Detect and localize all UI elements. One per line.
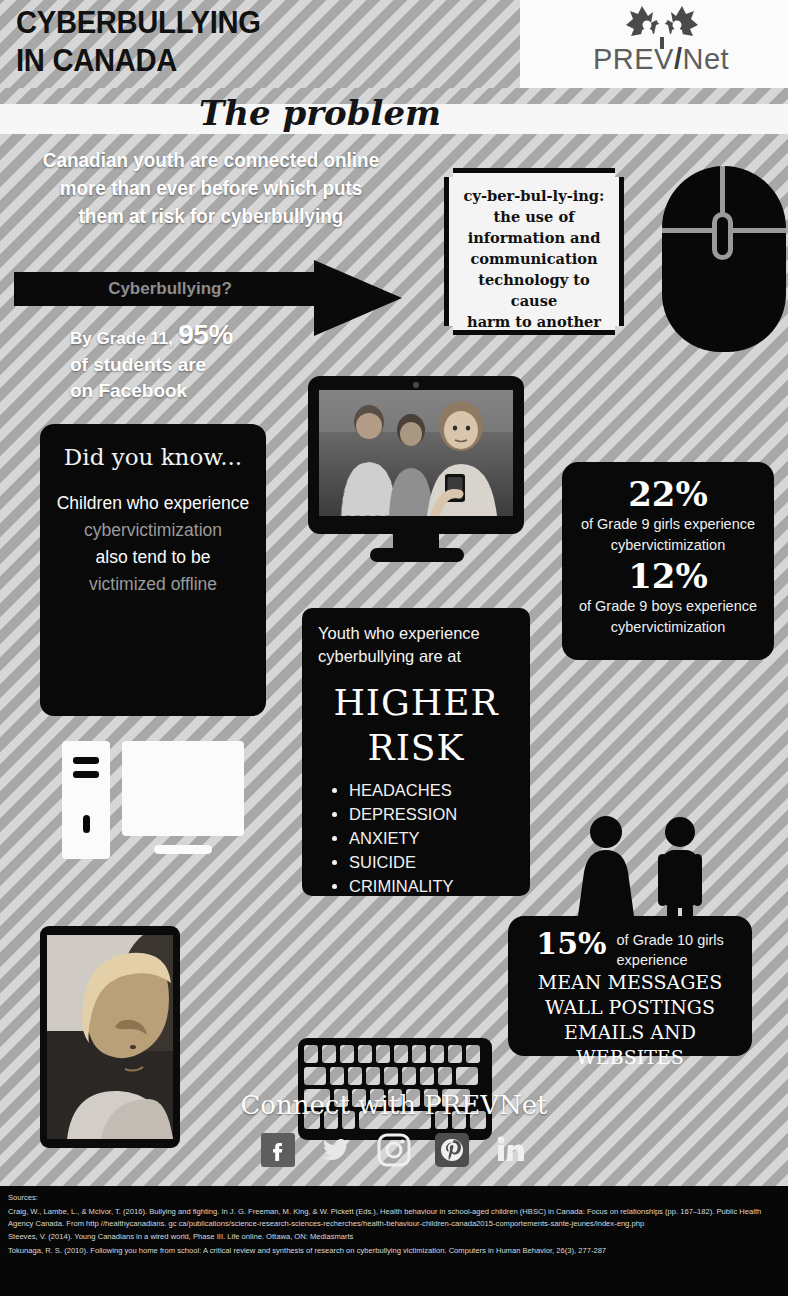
- did-you-know-line-2: cybervictimization: [50, 517, 256, 544]
- page-title-line2: IN CANADA: [16, 42, 458, 80]
- grade9-statistics-card: 22% of Grade 9 girls experience cybervic…: [562, 462, 774, 660]
- higher-risk-intro-line-1: Youth who experience: [318, 622, 514, 645]
- keyboard-key: [384, 1067, 398, 1085]
- grade9-girls-value: 22%: [572, 474, 764, 514]
- section-title-the-problem: The problem: [0, 93, 640, 133]
- definition-line-1: cy-ber-bul-ly-ing:: [459, 185, 609, 206]
- keyboard-key: [340, 1045, 354, 1063]
- bottom-margin: [0, 1296, 788, 1307]
- definition-line-6: harm to another: [459, 311, 609, 332]
- keyboard-key: [448, 1045, 462, 1063]
- intro-line-2: more than ever before which puts: [14, 174, 408, 202]
- infographic-poster: CYBERBULLYING IN CANADA PREV/Net The pro…: [0, 0, 788, 1307]
- keyboard-row: [304, 1067, 486, 1085]
- keyboard-key: [304, 1045, 318, 1063]
- definition-line-3: information and: [459, 227, 609, 248]
- higher-risk-intro-line-2: cyberbullying are at: [318, 645, 514, 668]
- list-item: CRIMINALITY: [332, 874, 514, 898]
- instagram-icon[interactable]: [376, 1132, 412, 1168]
- facebook-statistic: By Grade 11, 95% of students are on Face…: [70, 322, 330, 404]
- pinterest-icon[interactable]: [434, 1132, 470, 1168]
- keyboard-key: [430, 1045, 444, 1063]
- arrow-label: Cyberbullying?: [14, 272, 326, 306]
- higher-risk-list: HEADACHES DEPRESSION ANXIETY SUICIDE CRI…: [318, 778, 514, 898]
- keyboard-key: [412, 1045, 426, 1063]
- list-item: ANXIETY: [332, 826, 514, 850]
- grade10-statistic-value: 15%: [536, 928, 606, 960]
- definition-line-2: the use of: [459, 206, 609, 227]
- monitor-base: [370, 548, 464, 562]
- computer-mouse-icon: [662, 166, 782, 356]
- intro-line-3: them at risk for cyberbullying: [14, 202, 408, 230]
- did-you-know-card: Did you know... Children who experience …: [40, 424, 266, 716]
- sources-footer: Sources: Craig, W., Lambe, L., & McIvor,…: [0, 1186, 788, 1296]
- grade9-girls-caption-1: of Grade 9 girls experience: [572, 514, 764, 535]
- pc-monitor-stand: [154, 845, 212, 854]
- twitter-icon[interactable]: [318, 1132, 354, 1168]
- linkedin-icon[interactable]: [492, 1132, 528, 1168]
- did-you-know-line-4: victimized offline: [50, 571, 256, 598]
- facebook-statistic-line3: on Facebook: [70, 378, 330, 404]
- teens-with-phone-photo: [319, 390, 513, 516]
- did-you-know-title: Did you know...: [50, 444, 256, 470]
- facebook-icon[interactable]: [260, 1132, 296, 1168]
- keyboard-key: [348, 1067, 362, 1085]
- list-item: HEADACHES: [332, 778, 514, 802]
- higher-risk-headline-line-2: RISK: [318, 725, 514, 770]
- pc-monitor-icon: [122, 741, 244, 836]
- keyboard-row: [304, 1045, 486, 1063]
- monitor-with-photo: [308, 376, 536, 584]
- did-you-know-line-3: also tend to be: [50, 544, 256, 571]
- page-title-line1: CYBERBULLYING: [16, 4, 458, 42]
- grade10-statistic-caption: of Grade 10 girls experience: [617, 928, 724, 970]
- sources-label: Sources:: [8, 1192, 780, 1203]
- list-item: DEPRESSION: [332, 802, 514, 826]
- keyboard-key: [376, 1045, 390, 1063]
- keyboard-key: [438, 1067, 452, 1085]
- facebook-statistic-line1: By Grade 11, 95%: [70, 322, 330, 352]
- social-links: [0, 1132, 788, 1168]
- grade10-type-line-3: EMAILS AND WEBSITES: [518, 1020, 742, 1070]
- keyboard-key: [466, 1045, 480, 1063]
- did-you-know-body: Children who experience cybervictimizati…: [50, 490, 256, 598]
- monitor-frame: [308, 376, 524, 534]
- keyboard-key: [394, 1045, 408, 1063]
- connect-section: Connect with PREVNet: [0, 1090, 788, 1186]
- intro-paragraph: Canadian youth are connected online more…: [14, 146, 408, 230]
- page-title: CYBERBULLYING IN CANADA: [16, 0, 458, 80]
- mouse-scroll-wheel: [712, 212, 733, 260]
- cyberbullying-definition-card: cy-ber-bul-ly-ing: the use of informatio…: [444, 168, 624, 335]
- grade9-boys-caption-2: cybervictimization: [572, 617, 764, 638]
- header: CYBERBULLYING IN CANADA PREV/Net: [0, 0, 788, 88]
- pc-drive-slot-2: [73, 771, 99, 778]
- facebook-statistic-line2: of students are: [70, 352, 330, 378]
- definition-line-7: person: [459, 332, 609, 353]
- keyboard-key: [420, 1067, 434, 1085]
- list-item: SUICIDE: [332, 850, 514, 874]
- grade9-boys-caption-1: of Grade 9 boys experience: [572, 596, 764, 617]
- grade10-type-line-2: WALL POSTINGS: [518, 995, 742, 1020]
- higher-risk-card: Youth who experience cyberbullying are a…: [302, 608, 530, 896]
- grade10-statistic-card: 15% of Grade 10 girls experience MEAN ME…: [508, 916, 752, 1056]
- higher-risk-headline-line-1: HIGHER: [318, 680, 514, 725]
- teens-photo-illustration: [319, 390, 513, 516]
- source-entry: Tokunaga, R. S. (2010). Following you ho…: [8, 1245, 780, 1256]
- facebook-statistic-value: 95%: [178, 319, 233, 350]
- desktop-computer-icon: [62, 733, 252, 865]
- definition-line-5: technology to cause: [459, 269, 609, 311]
- higher-risk-intro: Youth who experience cyberbullying are a…: [318, 622, 514, 668]
- keyboard-key: [402, 1067, 416, 1085]
- grade10-statistic-header: 15% of Grade 10 girls experience: [518, 928, 742, 970]
- prevnet-wordmark: PREV/Net: [556, 43, 766, 76]
- grade10-statistic-caption-line-1: of Grade 10 girls: [617, 930, 724, 950]
- grade10-statistic-caption-line-2: experience: [617, 950, 724, 970]
- prevnet-logo: PREV/Net: [556, 3, 766, 85]
- pc-tower-icon: [62, 741, 110, 859]
- prevnet-wordmark-prev: PREV: [593, 43, 674, 75]
- facebook-statistic-prefix: By Grade 11,: [70, 329, 173, 348]
- keyboard-key: [358, 1045, 372, 1063]
- definition-line-4: communication: [459, 248, 609, 269]
- pc-power-button-icon: [83, 815, 90, 833]
- keyboard-key: [304, 1067, 326, 1085]
- pc-drive-slot-1: [73, 757, 99, 764]
